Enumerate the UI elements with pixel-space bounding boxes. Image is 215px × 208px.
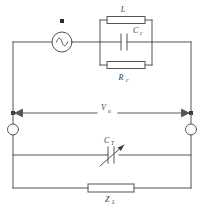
circuit-diagram: L C c R c V u C T Z L [0,0,215,208]
inductor-label: L [120,5,126,14]
coil-resistor-subscript: c [126,77,129,83]
tuning-capacitor-subscript: T [111,140,115,146]
voltage-arrowhead-right [182,110,189,117]
inductor-box [107,17,145,24]
left-terminal-circle [8,124,19,135]
coupling-capacitor-label: C [133,26,139,35]
ac-source-sine-icon [57,38,68,46]
right-terminal-circle [186,124,197,135]
voltage-arrowhead-left [15,110,22,117]
tuning-capacitor-label: C [104,136,110,145]
coupling-capacitor-subscript: c [140,30,143,36]
coil-resistor-label: R [118,73,124,82]
voltage-label: V [101,103,107,112]
load-impedance-box [88,184,134,192]
load-subscript: L [111,199,115,205]
source-square-marker-icon [60,19,64,23]
voltage-subscript: u [108,108,111,114]
schematic-canvas: L C c R c V u C T Z L [0,0,215,208]
resistor-box [107,62,145,69]
load-label: Z [105,195,110,204]
